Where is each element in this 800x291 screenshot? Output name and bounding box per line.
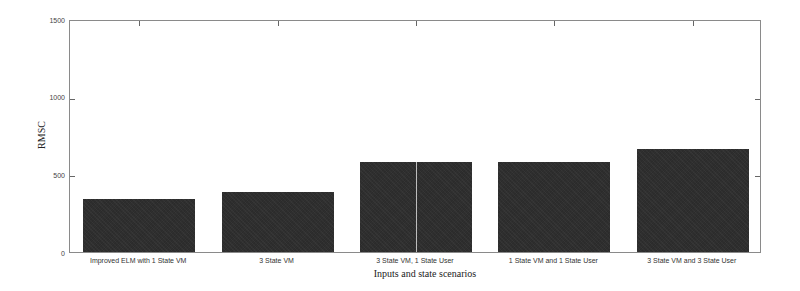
y-axis-label: RMSC	[36, 121, 47, 149]
x-tick-mark-top	[278, 21, 279, 26]
bar-4	[498, 162, 610, 252]
x-category-label: Improved ELM with 1 State VM	[90, 257, 186, 264]
plot-area	[69, 20, 761, 253]
x-category-label: 1 State VM and 1 State User	[509, 257, 598, 264]
x-category-label: 3 State VM and 3 State User	[647, 257, 736, 264]
x-tick-mark-top	[139, 21, 140, 26]
y-tick-mark	[70, 176, 75, 177]
y-tick-mark-right	[755, 176, 760, 177]
bar-2	[222, 192, 334, 252]
x-tick-mark-top	[416, 21, 417, 26]
scan-artifact-line	[416, 162, 417, 252]
y-tick-label-500: 500	[53, 172, 65, 179]
y-tick-mark	[70, 99, 75, 100]
y-tick-mark-right	[755, 99, 760, 100]
x-axis-label: Inputs and state scenarios	[374, 268, 476, 279]
x-tick-mark-top	[693, 21, 694, 26]
y-tick-label-0: 0	[61, 250, 65, 257]
y-tick-label-1000: 1000	[49, 94, 65, 101]
bar-1	[83, 199, 195, 252]
x-tick-mark-top	[554, 21, 555, 26]
bar-5	[637, 149, 749, 252]
y-tick-label-1500: 1500	[49, 17, 65, 24]
x-category-label: 3 State VM	[259, 257, 294, 264]
x-category-label: 3 State VM, 1 State User	[376, 257, 453, 264]
